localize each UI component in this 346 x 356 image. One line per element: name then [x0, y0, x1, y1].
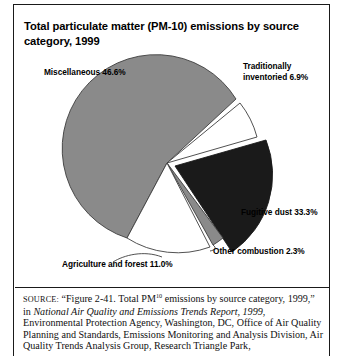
source-text-part1: “Figure 2-41. Total PM — [59, 293, 156, 304]
source-keyword: SOURCE: — [23, 295, 59, 304]
source-note: SOURCE: “Figure 2-41. Total PM10 emissio… — [23, 293, 323, 352]
pie-chart: Miscellaneous 46.6% Traditionally invent… — [14, 51, 329, 283]
figure-frame: Total particulate matter (PM-10) emissio… — [13, 4, 330, 356]
source-divider — [15, 287, 329, 288]
source-publication-title: National Air Quality and Emissions Trend… — [33, 306, 262, 317]
pie-label-miscellaneous: Miscellaneous 46.6% — [44, 67, 126, 78]
pie-label-fugitive-dust: Fugitive dust 33.3% — [241, 207, 318, 218]
pie-label-agriculture-forest: Agriculture and forest 11.0% — [62, 259, 173, 270]
pie-label-traditionally-inventoried: Traditionally inventoried 6.9% — [243, 61, 319, 82]
pie-label-other-combustion: Other combustion 2.3% — [213, 246, 305, 257]
page-title: Total particulate matter (PM-10) emissio… — [24, 19, 319, 48]
